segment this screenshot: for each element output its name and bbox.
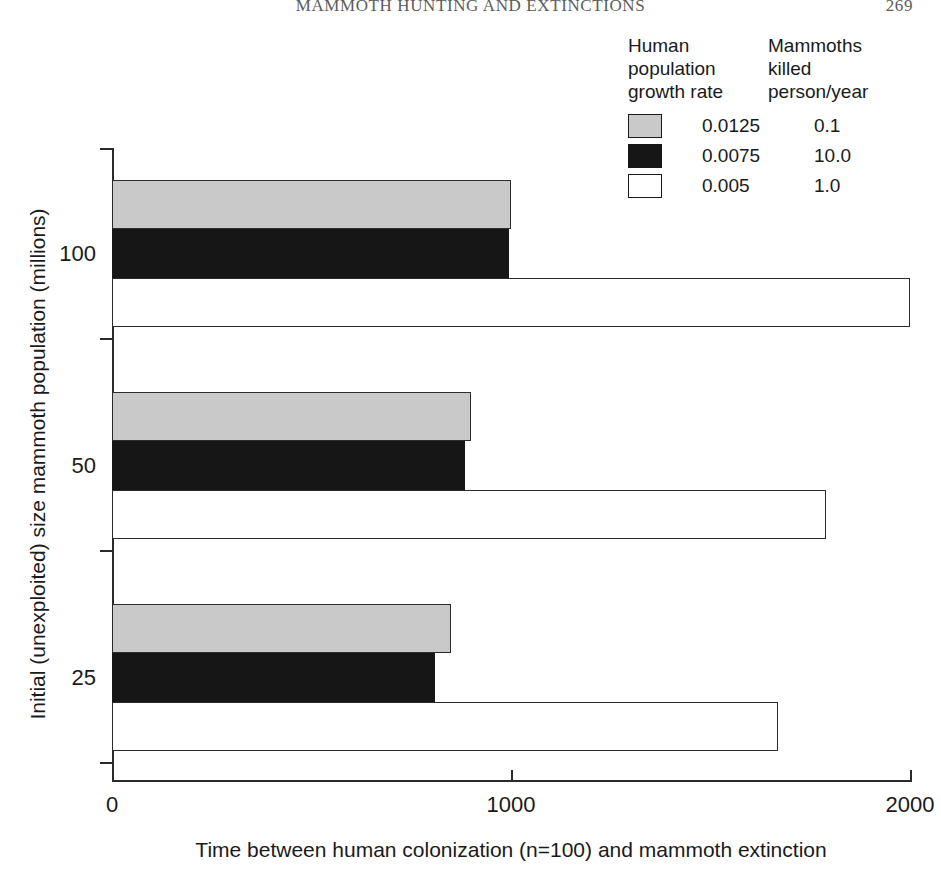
x-tick-label-0: 0 bbox=[106, 792, 118, 818]
legend-killed-value: 1.0 bbox=[814, 175, 924, 197]
legend-swatch-white-icon bbox=[628, 174, 662, 198]
legend-header: Human population growth rate Mammoths ki… bbox=[628, 34, 928, 103]
y-tick-mark bbox=[100, 148, 112, 150]
bar-25-white bbox=[112, 702, 778, 751]
x-tick-label-1000: 1000 bbox=[487, 792, 536, 818]
bar-25-gray bbox=[112, 604, 451, 653]
y-tick-mark bbox=[100, 550, 112, 552]
x-axis-title: Time between human colonization (n=100) … bbox=[112, 838, 910, 862]
legend-growth-rate-value: 0.0125 bbox=[702, 115, 814, 137]
chart-figure: Human population growth rate Mammoths ki… bbox=[0, 0, 941, 887]
legend-header-growth-line1: Human bbox=[628, 34, 768, 57]
x-tick-mark bbox=[910, 770, 912, 782]
bar-25-black bbox=[112, 653, 435, 702]
legend-header-killed-line3: person/year bbox=[768, 80, 918, 103]
x-tick-mark bbox=[511, 770, 513, 782]
legend-header-growth-line2: population bbox=[628, 57, 768, 80]
legend-swatch-black-icon bbox=[628, 144, 662, 168]
bar-50-black bbox=[112, 441, 465, 490]
legend-item: 0.0075 10.0 bbox=[628, 143, 928, 169]
legend-header-killed: Mammoths killed person/year bbox=[768, 34, 918, 103]
legend-killed-value: 10.0 bbox=[814, 145, 924, 167]
y-axis-title: Initial (unexploited) size mammoth popul… bbox=[26, 134, 50, 794]
x-tick-label-2000: 2000 bbox=[886, 792, 935, 818]
legend-header-killed-line1: Mammoths bbox=[768, 34, 918, 57]
bar-100-gray bbox=[112, 180, 511, 229]
legend-item: 0.0125 0.1 bbox=[628, 113, 928, 139]
bar-100-black bbox=[112, 229, 509, 278]
chart-legend: Human population growth rate Mammoths ki… bbox=[628, 34, 928, 203]
legend-killed-value: 0.1 bbox=[814, 115, 924, 137]
bar-50-gray bbox=[112, 392, 471, 441]
bar-50-white bbox=[112, 490, 826, 539]
legend-rows: 0.0125 0.1 0.0075 10.0 0.005 1.0 bbox=[628, 113, 928, 199]
legend-header-growth-line3: growth rate bbox=[628, 80, 768, 103]
legend-header-growth-rate: Human population growth rate bbox=[628, 34, 768, 103]
legend-header-killed-line2: killed bbox=[768, 57, 918, 80]
legend-growth-rate-value: 0.0075 bbox=[702, 145, 814, 167]
y-tick-mark bbox=[100, 338, 112, 340]
x-tick-mark bbox=[112, 770, 114, 782]
legend-item: 0.005 1.0 bbox=[628, 173, 928, 199]
legend-swatch-gray-icon bbox=[628, 114, 662, 138]
bar-100-white bbox=[112, 278, 910, 327]
legend-growth-rate-value: 0.005 bbox=[702, 175, 814, 197]
y-tick-mark bbox=[100, 762, 112, 764]
